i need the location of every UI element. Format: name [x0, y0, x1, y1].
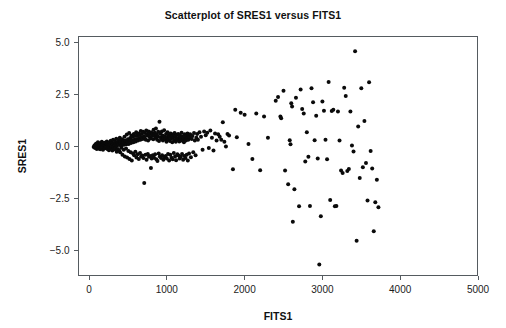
scatterplot-figure: Scatterplot of SRES1 versus FITS1 5.02.5…: [0, 0, 506, 328]
y-tick-label: −5.0: [50, 245, 70, 256]
x-tick-label: 5000: [467, 284, 490, 295]
y-tick-label: 2.5: [56, 89, 70, 100]
data-point: [361, 165, 365, 169]
data-point: [233, 108, 237, 112]
data-point: [299, 87, 303, 91]
data-point: [302, 112, 306, 116]
data-point: [290, 104, 294, 108]
data-point: [342, 86, 346, 90]
data-point: [227, 134, 231, 138]
data-point: [289, 101, 293, 105]
data-point: [305, 130, 309, 134]
data-point: [376, 205, 380, 209]
data-point: [199, 135, 203, 139]
x-tick-label: 0: [86, 284, 92, 295]
data-point: [221, 120, 225, 124]
data-point: [344, 94, 348, 98]
data-point: [356, 124, 360, 128]
data-point: [322, 109, 326, 113]
data-point: [254, 112, 258, 116]
data-point: [370, 166, 374, 170]
data-point: [352, 149, 356, 153]
plot-area: 5.02.50.0−2.5−5.0 010002000300040005000 …: [0, 0, 506, 328]
data-point: [130, 159, 134, 163]
data-point: [328, 198, 332, 202]
data-points-layer: [92, 49, 381, 266]
data-point: [313, 138, 317, 142]
data-point: [266, 136, 270, 140]
data-point: [364, 161, 368, 165]
data-point: [142, 181, 146, 185]
data-point: [369, 149, 373, 153]
data-point: [350, 144, 354, 148]
data-point: [282, 89, 286, 93]
data-point: [366, 199, 370, 203]
data-point: [210, 136, 214, 140]
data-point: [341, 171, 345, 175]
x-axis-ticks: 010002000300040005000: [86, 276, 489, 295]
data-point: [338, 139, 342, 143]
data-point: [258, 168, 262, 172]
data-point: [300, 107, 304, 111]
data-point: [297, 204, 301, 208]
x-tick-label: 2000: [233, 284, 256, 295]
data-point: [310, 86, 314, 90]
y-tick-label: 5.0: [56, 37, 70, 48]
data-point: [314, 114, 318, 118]
data-point: [327, 80, 331, 84]
data-point: [355, 239, 359, 243]
data-point: [215, 139, 219, 143]
data-point: [320, 99, 324, 103]
data-point: [372, 229, 376, 233]
data-point: [308, 204, 312, 208]
data-point: [276, 95, 280, 99]
data-point: [319, 214, 323, 218]
x-tick-label: 4000: [389, 284, 412, 295]
data-point: [207, 146, 211, 150]
data-point: [197, 130, 201, 134]
data-point: [291, 220, 295, 224]
data-point: [358, 176, 362, 180]
data-point: [348, 109, 352, 113]
data-point: [294, 96, 298, 100]
x-axis-title: FITS1: [264, 310, 293, 322]
data-point: [336, 109, 340, 113]
data-point: [286, 182, 290, 186]
data-point: [292, 187, 296, 191]
data-point: [149, 166, 153, 170]
y-axis-ticks: 5.02.50.0−2.5−5.0: [50, 37, 79, 256]
data-point: [211, 149, 215, 153]
x-tick-label: 3000: [311, 284, 334, 295]
data-point: [288, 138, 292, 142]
data-point: [324, 138, 328, 142]
data-point: [367, 80, 371, 84]
data-point: [235, 135, 239, 139]
y-tick-label: 0.0: [56, 141, 70, 152]
data-point: [289, 142, 293, 146]
data-point: [174, 158, 178, 162]
data-point: [347, 167, 351, 171]
data-point: [155, 159, 159, 163]
data-point: [359, 86, 363, 90]
data-point: [306, 155, 310, 159]
data-point: [334, 204, 338, 208]
data-point: [153, 152, 157, 156]
data-point: [274, 99, 278, 103]
y-axis-title: SRES1: [16, 139, 28, 174]
data-point: [187, 151, 191, 155]
data-point: [262, 114, 266, 118]
data-point: [208, 129, 212, 133]
data-point: [157, 120, 161, 124]
data-point: [243, 113, 247, 117]
data-point: [186, 159, 190, 163]
data-point: [303, 159, 307, 163]
data-point: [246, 142, 250, 146]
data-point: [325, 157, 329, 161]
data-point: [279, 116, 283, 120]
data-point: [316, 156, 320, 160]
data-point: [283, 169, 287, 173]
data-point: [317, 263, 321, 267]
data-point: [196, 138, 200, 142]
data-point: [231, 167, 235, 171]
data-point: [373, 200, 377, 204]
